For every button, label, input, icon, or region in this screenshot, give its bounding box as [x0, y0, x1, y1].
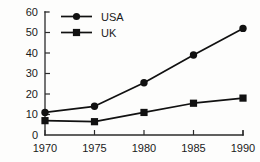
chart-legend: USA UK — [61, 11, 124, 39]
y-tick-label: 20 — [26, 88, 38, 100]
y-tick-label: 0 — [32, 129, 38, 141]
circle-marker-icon — [73, 13, 80, 20]
y-tick-label: 40 — [26, 47, 38, 59]
series-usa-line — [45, 28, 243, 112]
y-axis-tick-labels: 60 50 40 30 20 10 0 — [26, 6, 38, 141]
circle-marker-icon — [190, 51, 197, 58]
line-chart-figure: 60 50 40 30 20 10 0 — [0, 0, 260, 162]
x-tick-label: 1975 — [82, 142, 106, 154]
y-axis-ticks — [45, 33, 50, 115]
circle-marker-icon — [91, 103, 98, 110]
series-usa-markers — [41, 25, 246, 116]
legend-label-uk: UK — [101, 27, 117, 39]
x-axis-ticks — [45, 130, 243, 135]
series-usa — [41, 25, 246, 116]
y-tick-label: 10 — [26, 108, 38, 120]
x-axis-tick-labels: 1970 1975 1980 1985 1990 — [33, 142, 255, 154]
circle-marker-icon — [140, 79, 147, 86]
chart-canvas: 60 50 40 30 20 10 0 — [0, 0, 260, 162]
square-marker-icon — [91, 118, 98, 125]
square-marker-icon — [239, 95, 246, 102]
x-tick-label: 1990 — [231, 142, 255, 154]
square-marker-icon — [73, 29, 80, 36]
circle-marker-icon — [41, 109, 48, 116]
x-tick-label: 1985 — [181, 142, 205, 154]
square-marker-icon — [190, 100, 197, 107]
x-tick-label: 1980 — [132, 142, 156, 154]
y-tick-label: 60 — [26, 6, 38, 18]
legend-label-usa: USA — [101, 11, 124, 23]
square-marker-icon — [140, 109, 147, 116]
y-tick-label: 50 — [26, 26, 38, 38]
x-tick-label: 1970 — [33, 142, 57, 154]
square-marker-icon — [41, 117, 48, 124]
y-tick-label: 30 — [26, 67, 38, 79]
circle-marker-icon — [239, 25, 246, 32]
